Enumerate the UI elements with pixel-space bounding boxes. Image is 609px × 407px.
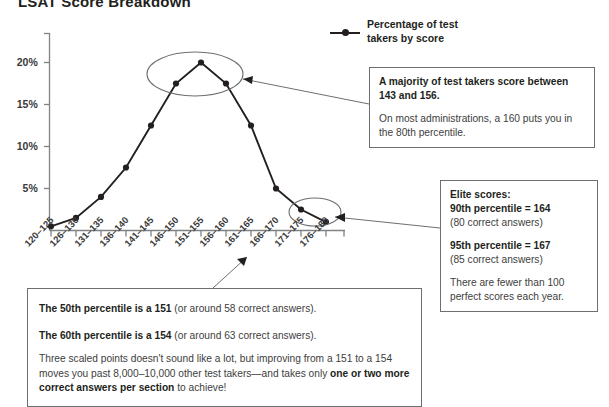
page-title: LSAT Score Breakdown — [18, 0, 191, 10]
y-tick-label-20: 20% — [4, 56, 38, 68]
data-point — [198, 59, 204, 65]
callout-percentiles-line-60: The 60th percentile is a 154 (or around … — [39, 325, 410, 343]
callout-percentiles-para-b: to achieve! — [174, 382, 226, 393]
data-point — [148, 122, 154, 128]
data-point — [123, 164, 129, 170]
data-point — [173, 80, 179, 86]
lsat-score-breakdown-figure: LSAT Score Breakdown Percentage of test … — [0, 0, 609, 407]
y-tick-label-10: 10% — [4, 140, 38, 152]
callout-elite-95th: 95th percentile = 167 — [450, 239, 588, 253]
data-point — [298, 206, 304, 212]
data-point — [98, 194, 104, 200]
chart-legend: Percentage of test takers by score — [330, 18, 487, 46]
callout-elite-heading: Elite scores: — [450, 188, 588, 202]
callout-percentiles-50-rest: (or around 58 correct answers). — [172, 303, 317, 314]
callout-percentiles-line-50: The 50th percentile is a 151 (or around … — [39, 298, 410, 316]
data-point — [248, 122, 254, 128]
y-tick-label-5: 5% — [4, 182, 38, 194]
callout-majority-heading: A majority of test takers score between … — [379, 75, 585, 103]
callout-elite-body: There are fewer than 100 perfect scores … — [450, 276, 588, 304]
data-point — [273, 185, 279, 191]
callout-percentiles-60-bold: The 60th percentile is a 154 — [39, 330, 172, 341]
legend-label: Percentage of test takers by score — [367, 18, 487, 46]
callout-majority: A majority of test takers score between … — [369, 67, 595, 148]
data-point — [223, 80, 229, 86]
legend-line-dot-marker-icon — [330, 26, 360, 40]
callout-elite-95th-sub: (85 correct answers) — [450, 253, 588, 267]
callout-percentiles-50-bold: The 50th percentile is a 151 — [39, 303, 172, 314]
callout-elite-90th: 90th percentile = 164 — [450, 202, 588, 216]
callout-elite-90th-sub: (80 correct answers) — [450, 216, 588, 230]
callout-percentiles-60-rest: (or around 63 correct answers). — [172, 330, 317, 341]
chart-axes — [44, 33, 345, 237]
callout-elite-scores: Elite scores: 90th percentile = 164 (80 … — [440, 180, 598, 312]
data-series-points — [48, 59, 329, 229]
y-tick-label-15: 15% — [4, 98, 38, 110]
callout-percentiles-paragraph: Three scaled points doesn't sound like a… — [39, 352, 410, 395]
callout-majority-body: On most administrations, a 160 puts you … — [379, 112, 585, 140]
peak-highlight-ellipse — [147, 52, 243, 96]
data-series-line — [51, 63, 326, 227]
callout-percentiles: The 50th percentile is a 151 (or around … — [27, 288, 422, 407]
